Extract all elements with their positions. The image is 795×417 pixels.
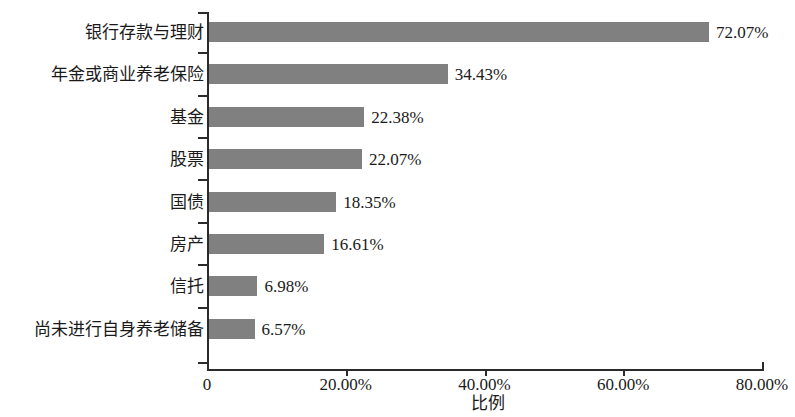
- x-axis-tick-label: 60.00%: [597, 375, 649, 395]
- bar: [209, 64, 448, 84]
- bar-value-label: 6.57%: [262, 320, 306, 340]
- category-label: 基金: [170, 108, 204, 128]
- category-label: 房产: [170, 235, 204, 255]
- bar: [209, 107, 364, 127]
- bar-value-label: 18.35%: [343, 193, 395, 213]
- x-axis-end-cap: [762, 362, 764, 370]
- bar-value-label: 72.07%: [716, 23, 768, 43]
- y-axis-tick: [198, 52, 207, 54]
- x-axis-end-cap: [207, 362, 209, 370]
- bar-value-label: 16.61%: [331, 235, 383, 255]
- bar: [209, 276, 257, 296]
- bar: [209, 319, 255, 339]
- bar: [209, 22, 709, 42]
- bar-value-label: 22.38%: [371, 108, 423, 128]
- y-axis-tick: [198, 264, 207, 266]
- y-axis-tick: [198, 222, 207, 224]
- bar-value-label: 34.43%: [455, 65, 507, 85]
- category-label: 信托: [170, 277, 204, 297]
- y-axis-tick: [198, 137, 207, 139]
- y-axis-tick: [198, 95, 207, 97]
- y-axis-tick: [198, 307, 207, 309]
- bar-value-label: 22.07%: [369, 150, 421, 170]
- bar-value-label: 6.98%: [264, 277, 308, 297]
- x-axis-tick-label: 20.00%: [320, 375, 372, 395]
- bar: [209, 234, 324, 254]
- x-axis-tick-label: 40.00%: [458, 375, 510, 395]
- x-axis-title-text: 比例: [471, 394, 505, 414]
- bar: [209, 192, 336, 212]
- y-axis-end-cap: [198, 12, 207, 14]
- bar-chart: 020.00%40.00%60.00%80.00% 银行存款与理财年金或商业养老…: [0, 0, 795, 417]
- bar: [209, 149, 362, 169]
- category-label: 尚未进行自身养老储备: [34, 320, 204, 340]
- category-label: 股票: [170, 150, 204, 170]
- y-axis-end-cap: [198, 362, 207, 364]
- y-axis-tick: [198, 179, 207, 181]
- x-axis-tick-label: 0: [203, 375, 212, 395]
- category-label: 国债: [170, 193, 204, 213]
- x-axis-title: 比例: [0, 394, 795, 414]
- category-label: 银行存款与理财: [85, 23, 204, 43]
- x-axis-tick-label: 80.00%: [736, 375, 788, 395]
- category-label: 年金或商业养老保险: [51, 65, 204, 85]
